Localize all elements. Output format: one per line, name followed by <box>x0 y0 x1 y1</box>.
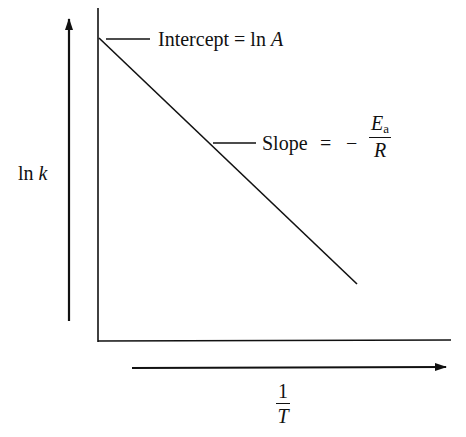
y-axis-label: ln k <box>18 163 47 183</box>
x-axis-denominator: T <box>277 404 288 426</box>
slope-fraction: Ea R <box>369 113 391 160</box>
x-axis-numerator: 1 <box>276 381 290 403</box>
x-direction-arrow-icon <box>132 367 446 368</box>
x-axis-line <box>98 340 451 341</box>
x-axis-label: 1 T <box>276 381 290 426</box>
slope-numerator: E <box>371 112 383 134</box>
intercept-label: Intercept = ln A <box>158 29 283 49</box>
slope-text: Slope <box>262 132 308 154</box>
slope-equals: = <box>320 133 331 153</box>
slope-minus: − <box>346 133 357 153</box>
slope-numerator-sub: a <box>383 121 389 136</box>
data-line <box>99 38 357 284</box>
slope-denominator: R <box>374 138 386 160</box>
arrhenius-plot <box>0 0 466 437</box>
intercept-var: A <box>271 28 283 50</box>
slope-label: Slope <box>262 133 308 153</box>
intercept-text: Intercept = ln <box>158 28 271 50</box>
